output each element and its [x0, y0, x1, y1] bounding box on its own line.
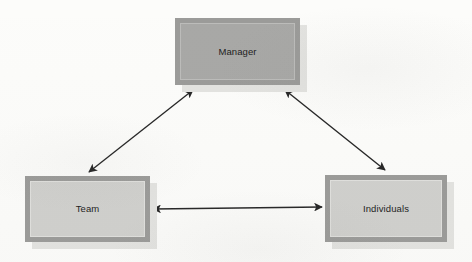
- diagram-canvas: Manager Team Individuals: [0, 0, 472, 262]
- node-manager-label: Manager: [218, 47, 256, 57]
- node-team[interactable]: Team: [25, 176, 150, 242]
- node-team-frame: Team: [25, 176, 150, 242]
- connector-manager-team: [89, 90, 193, 172]
- node-manager[interactable]: Manager: [175, 18, 300, 85]
- connector-team-individuals: [153, 207, 322, 209]
- node-individuals-inner: Individuals: [330, 180, 442, 237]
- node-team-inner: Team: [30, 181, 145, 237]
- node-individuals[interactable]: Individuals: [325, 175, 447, 242]
- node-manager-inner: Manager: [180, 23, 295, 80]
- node-manager-frame: Manager: [175, 18, 300, 85]
- node-individuals-frame: Individuals: [325, 175, 447, 242]
- connector-manager-individuals: [285, 90, 385, 170]
- node-team-label: Team: [76, 204, 100, 214]
- node-individuals-label: Individuals: [363, 204, 409, 214]
